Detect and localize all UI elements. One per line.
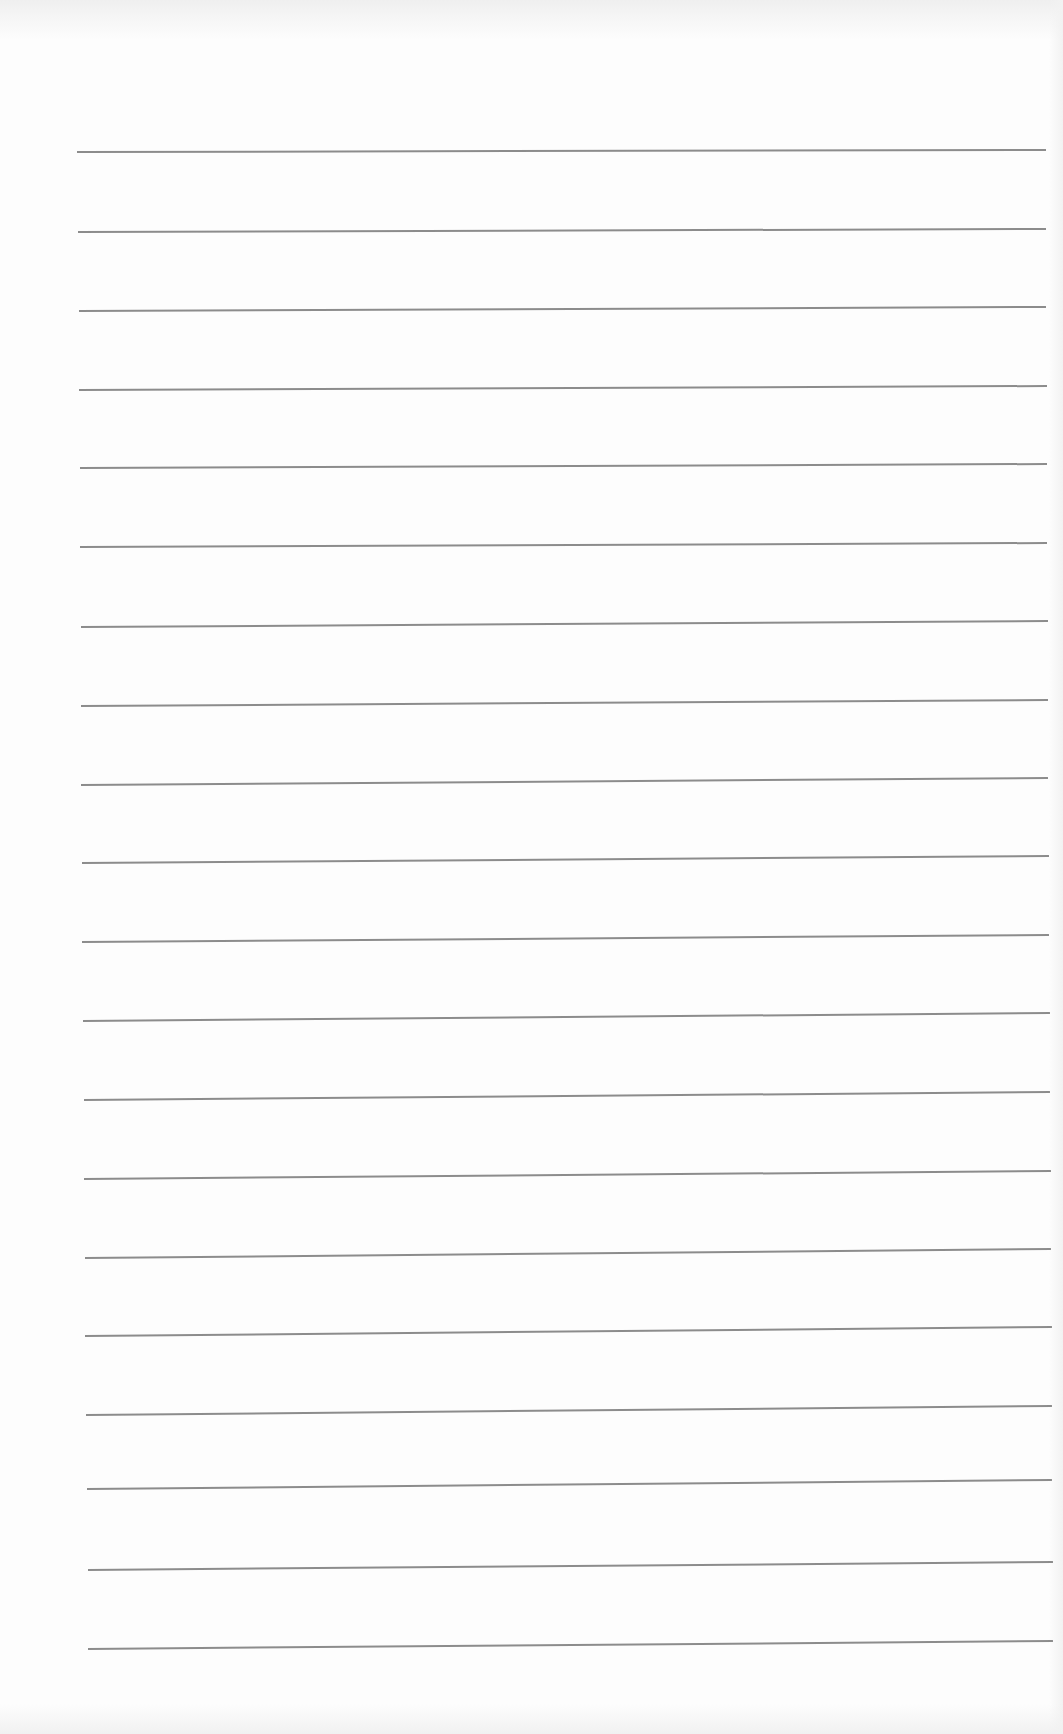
ruled-line — [82, 855, 1049, 864]
ruled-line — [80, 463, 1047, 469]
ruled-line — [81, 777, 1048, 786]
ruled-line — [81, 699, 1048, 707]
ruled-line — [88, 1561, 1053, 1571]
ruled-line — [87, 1479, 1052, 1490]
ruled-line — [88, 1640, 1053, 1650]
ruled-line — [80, 542, 1047, 548]
ruled-line — [84, 1170, 1051, 1180]
ruled-line — [77, 149, 1046, 153]
ruled-line — [86, 1405, 1052, 1416]
ruled-line — [78, 228, 1046, 233]
ruled-line — [81, 620, 1048, 628]
ruled-line — [85, 1248, 1051, 1259]
ruled-line — [84, 1091, 1050, 1101]
ruled-lines — [0, 0, 1063, 1734]
ruled-line — [79, 306, 1046, 312]
ruled-line — [85, 1326, 1052, 1337]
ruled-line — [79, 385, 1047, 391]
ruled-line — [82, 934, 1049, 943]
ruled-line — [83, 1012, 1050, 1022]
